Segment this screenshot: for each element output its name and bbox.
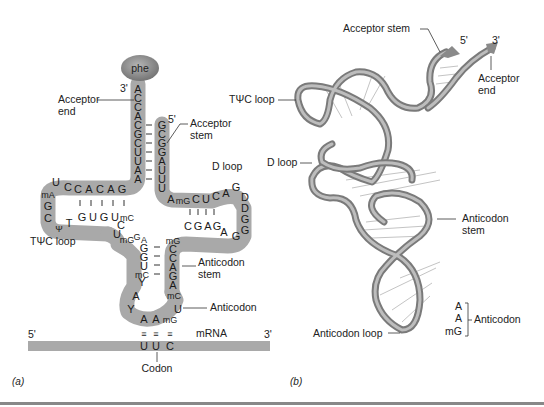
b-acceptor-end-label: Acceptor	[478, 72, 520, 84]
svg-text:U: U	[202, 193, 210, 205]
svg-text:stem: stem	[462, 224, 485, 236]
tpsic-loop-label: TΨC loop	[30, 235, 76, 247]
mrna-five-prime: 5'	[28, 328, 36, 340]
acceptor-stem-label: Acceptor	[190, 117, 232, 129]
svg-text:U: U	[158, 182, 166, 194]
mrna-label: mRNA	[196, 327, 227, 339]
svg-text:T: T	[66, 217, 73, 229]
svg-text:Y: Y	[138, 276, 146, 288]
svg-text:C: C	[212, 190, 220, 202]
svg-text:A: A	[85, 183, 93, 195]
svg-text:A: A	[204, 220, 212, 232]
svg-text:C: C	[74, 183, 82, 195]
svg-text:Ψ: Ψ	[55, 224, 63, 234]
b-three-prime: 3'	[492, 34, 500, 46]
panel-b-3d-structure: Acceptor stem 5' 3' Acceptor end TΨC loo…	[229, 22, 521, 387]
b-anticodon-stem-label: Anticodon	[462, 212, 509, 224]
three-prime-label: 3'	[120, 82, 128, 94]
anticodon-label: Anticodon	[210, 301, 257, 313]
acceptor-end-label: Acceptor	[58, 93, 100, 105]
trna-figure: phe 3' A C C A C G C U U A A 5'	[0, 0, 544, 407]
svg-text:A: A	[455, 312, 462, 324]
svg-text:G: G	[100, 211, 109, 223]
five-prime-label: 5'	[168, 113, 176, 125]
strand-5prime: G C G G A U U U	[158, 119, 167, 194]
svg-text:U: U	[89, 211, 97, 223]
svg-text:C: C	[192, 193, 200, 205]
svg-text:mG: mG	[176, 196, 191, 206]
anticodon-pairing	[154, 247, 160, 274]
svg-text:A: A	[107, 183, 115, 195]
b-anticodon-bases: A A mG	[445, 300, 462, 337]
panel-a-label: (a)	[12, 376, 24, 387]
anticodon-bases: A A mG	[140, 313, 177, 325]
b-acceptor-stem-label: Acceptor stem	[343, 22, 410, 34]
panel-b-label: (b)	[290, 376, 302, 387]
svg-text:G: G	[194, 220, 203, 232]
svg-text:G: G	[78, 211, 87, 223]
svg-text:end: end	[478, 84, 496, 96]
svg-text:A: A	[134, 173, 142, 185]
svg-text:stem: stem	[198, 268, 221, 280]
svg-text:C: C	[44, 212, 52, 224]
codon-label: Codon	[142, 362, 173, 374]
anticodon-stem-label: Anticodon	[198, 256, 245, 268]
acceptor-pairing	[146, 125, 152, 179]
svg-text:≡: ≡	[141, 329, 146, 339]
b-tpsic-loop-label: TΨC loop	[229, 93, 275, 105]
d-loop-label: D loop	[212, 160, 243, 172]
svg-text:G: G	[44, 200, 53, 212]
mrna-three-prime: 3'	[264, 328, 272, 340]
svg-text:A: A	[152, 313, 160, 325]
svg-text:G: G	[213, 220, 222, 232]
svg-text:≡: ≡	[167, 329, 172, 339]
svg-text:mG: mG	[163, 315, 178, 325]
svg-text:mG: mG	[445, 325, 462, 337]
svg-text:U: U	[174, 303, 182, 315]
svg-text:G: G	[241, 224, 250, 236]
svg-text:A: A	[455, 300, 462, 312]
svg-text:G: G	[118, 183, 127, 195]
b-five-prime: 5'	[460, 34, 468, 46]
svg-text:C: C	[96, 183, 104, 195]
b-anticodon-label: Anticodon	[474, 313, 521, 325]
bottom-rule	[0, 402, 544, 405]
svg-text:U: U	[52, 176, 60, 188]
svg-text:U: U	[140, 340, 148, 352]
svg-text:G: G	[232, 230, 241, 242]
svg-text:C: C	[184, 220, 192, 232]
tpsic-pairing	[80, 200, 124, 206]
svg-text:A: A	[140, 313, 148, 325]
mrna-strand	[28, 341, 270, 351]
d-pairing	[190, 209, 214, 215]
svg-text:G: G	[133, 232, 140, 242]
b-anticodon-loop-label: Anticodon loop	[313, 327, 383, 339]
strand-3prime: A C C A C G C U U A A	[134, 83, 143, 185]
svg-text:stem: stem	[190, 129, 213, 141]
svg-text:A: A	[220, 226, 228, 238]
codon-bases: U U C	[140, 340, 174, 352]
svg-text:A: A	[167, 193, 175, 205]
svg-text:G: G	[232, 181, 241, 193]
codon-pairing: ≡ ≡ ≡	[141, 329, 172, 339]
phe-label: phe	[131, 62, 149, 74]
svg-text:U: U	[152, 340, 160, 352]
svg-text:A: A	[169, 279, 177, 291]
svg-text:end: end	[58, 105, 76, 117]
svg-text:C: C	[166, 340, 174, 352]
svg-text:mC: mC	[167, 291, 181, 301]
svg-text:Y: Y	[127, 303, 135, 315]
b-d-loop-label: D loop	[267, 156, 298, 168]
svg-text:≡: ≡	[153, 329, 158, 339]
svg-text:A: A	[132, 290, 140, 302]
svg-text:mG: mG	[120, 235, 135, 245]
svg-text:mA: mA	[41, 190, 55, 200]
svg-text:A: A	[222, 187, 230, 199]
svg-text:C: C	[64, 181, 72, 193]
